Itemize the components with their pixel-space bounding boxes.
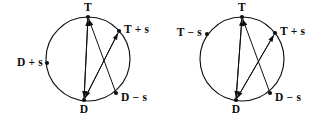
circle-outline	[46, 17, 130, 101]
arrow-T-to-D	[234, 19, 242, 98]
node-label-D-s: D − s	[275, 91, 301, 103]
node-label-T: T	[84, 1, 92, 13]
node-label-D-s: D − s	[121, 91, 147, 103]
arrow-shaft	[243, 19, 270, 91]
arrow-shaft	[85, 33, 118, 98]
node-label-T: T	[238, 1, 246, 13]
node-dot	[273, 31, 277, 35]
circle-outline	[200, 17, 284, 101]
node-T[interactable]: T	[84, 1, 92, 19]
node-dot	[268, 91, 272, 95]
arrow-shaft	[89, 19, 116, 91]
node-dot	[117, 29, 121, 33]
arrow-head-icon	[243, 19, 248, 26]
arrow-head-icon	[89, 19, 94, 26]
arrow-shaft	[84, 19, 88, 98]
right-circle-diagram: TT + sT − sDD − s	[177, 1, 306, 115]
left-circle-diagram: TT + sD + sDD − s	[17, 1, 150, 115]
node-label-D+s: D + s	[17, 56, 43, 68]
node-label-D: D	[80, 103, 89, 115]
node-label-T-s: T − s	[177, 26, 203, 38]
node-label-D: D	[232, 103, 241, 115]
arrow-head-icon	[268, 35, 274, 42]
node-dot	[240, 15, 244, 19]
node-dot	[82, 98, 86, 102]
node-dot	[45, 61, 49, 65]
node-D-s[interactable]: D − s	[114, 91, 148, 103]
node-T-s[interactable]: T − s	[177, 26, 209, 38]
arrow-group	[82, 19, 118, 98]
node-T+s[interactable]: T + s	[273, 25, 306, 37]
arrow-group	[234, 19, 274, 98]
diagram-canvas: TT + sD + sDD − sTT + sT − sDD − s	[0, 0, 327, 121]
node-dot	[86, 15, 90, 19]
node-D+s[interactable]: D + s	[17, 56, 49, 68]
node-dot	[205, 32, 209, 36]
node-dot	[114, 91, 118, 95]
arrow-head-icon	[113, 33, 118, 40]
node-label-T+s: T + s	[280, 25, 306, 37]
node-T[interactable]: T	[238, 1, 246, 19]
arrow-D-to-Tps	[85, 33, 118, 98]
arrow-Dms-to-T	[243, 19, 270, 91]
arrow-shaft	[236, 19, 242, 98]
node-label-T+s: T + s	[124, 23, 150, 35]
figure-root: TT + sD + sDD − sTT + sT − sDD − s	[0, 0, 327, 121]
node-D-s[interactable]: D − s	[268, 91, 302, 103]
arrow-T-to-D	[82, 19, 88, 98]
arrow-Dms-to-T	[89, 19, 116, 91]
node-dot	[234, 98, 238, 102]
